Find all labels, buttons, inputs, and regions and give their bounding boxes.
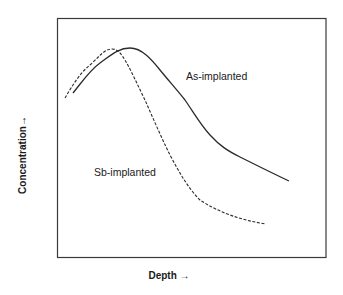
- as-implanted-label: As-implanted: [186, 70, 247, 82]
- y-axis-label: Concentration→: [17, 116, 28, 194]
- x-axis-label: Depth →: [148, 270, 189, 281]
- plot-area-frame: [58, 19, 327, 258]
- chart: As-implanted Sb-implanted Concentration→…: [0, 0, 343, 295]
- sb-implanted-label: Sb-implanted: [94, 166, 156, 178]
